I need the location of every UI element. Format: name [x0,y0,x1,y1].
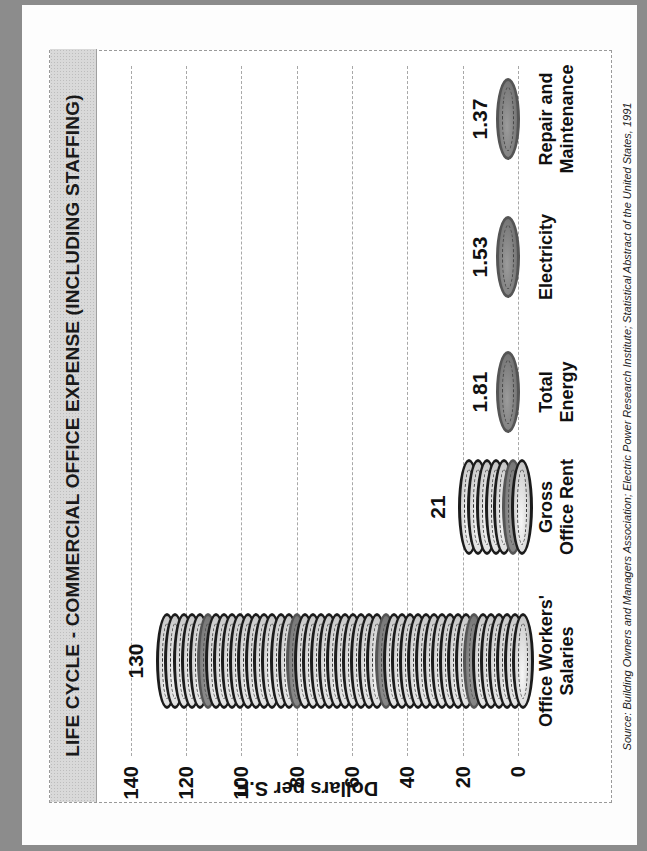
coin [496,216,520,298]
source-note: Source: Building Owners and Managers Ass… [621,50,633,803]
category-label: TotalEnergy [536,322,578,462]
value-label: 130 [124,643,148,678]
coin [511,459,533,555]
category-label-line1: Office Workers' [536,591,557,731]
y-tick-label: 0 [507,766,530,806]
chart-title: LIFE CYCLE - COMMERCIAL OFFICE EXPENSE (… [62,49,84,802]
coin-stack [458,459,534,555]
title-band: LIFE CYCLE - COMMERCIAL OFFICE EXPENSE (… [50,49,97,802]
value-label: 1.37 [468,99,492,140]
value-label: 21 [426,495,450,518]
y-tick-label: 140 [119,766,142,806]
category-label-line1: Total [536,322,557,462]
y-axis-title: Dollars per S.F. [234,777,379,800]
y-tick-label: 20 [451,766,474,806]
value-label: 1.53 [468,237,492,278]
coin-stack [496,209,518,305]
coin [496,78,520,160]
rotated-chart-canvas: LIFE CYCLE - COMMERCIAL OFFICE EXPENSE (… [49,50,647,803]
coin-stack [496,344,518,440]
category-label-line2: Maintenance [557,49,578,189]
category-label: Electricity [536,187,557,327]
chart-box: LIFE CYCLE - COMMERCIAL OFFICE EXPENSE (… [49,50,612,803]
category-label: Repair andMaintenance [536,49,578,189]
category-label-line2: Energy [557,322,578,462]
value-label: 1.81 [468,372,492,413]
coin [512,613,534,709]
y-tick-label: 40 [396,766,419,806]
category-label-line1: Repair and [536,49,557,189]
y-tick-label: 120 [175,766,198,806]
category-label-line2: Salaries [557,591,578,731]
coin-stack [156,613,534,709]
category-label-line1: Electricity [536,187,557,327]
category-label: Office Workers'Salaries [536,591,578,731]
coin [496,351,520,433]
coin-stack [496,71,518,167]
